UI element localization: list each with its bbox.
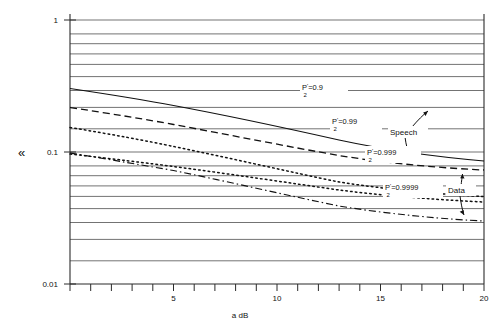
- x-axis-title: a dB: [232, 311, 248, 320]
- figure-container: 1 0.1 0.01 « 5 10 15 20 a dB P'=0.9 2 P'…: [0, 0, 496, 328]
- x-axis-ticks: [70, 284, 484, 291]
- y-tick-label-0-01: 0.01: [42, 280, 58, 289]
- y-tick-label-0-1: 0.1: [47, 148, 59, 157]
- curve-label-p2-0-9: P'=0.9 2: [300, 81, 348, 98]
- label-eq-09999: =0.9999: [391, 183, 418, 192]
- axis-frame: [70, 14, 484, 284]
- gridlines: [70, 20, 484, 261]
- log-linear-chart: 1 0.1 0.01 « 5 10 15 20 a dB P'=0.9 2 P'…: [0, 0, 496, 328]
- speech-arrowhead-upper: [423, 111, 428, 116]
- x-tick-label-5: 5: [171, 294, 176, 303]
- y-axis-chevron-marker: «: [18, 145, 25, 160]
- label-eq-09: =0.9: [308, 83, 323, 92]
- data-curves: [70, 89, 484, 222]
- x-tick-label-15: 15: [376, 294, 385, 303]
- svg-text:P'=0.999: P'=0.999: [367, 148, 396, 157]
- speech-label: Speech: [390, 128, 417, 137]
- svg-text:P'=0.9: P'=0.9: [302, 83, 323, 92]
- x-tick-label-10: 10: [273, 294, 282, 303]
- svg-text:P'=0.99: P'=0.99: [332, 117, 357, 126]
- data-arrowhead-upper: [460, 174, 464, 178]
- data-label: Data: [448, 186, 465, 195]
- label-eq-099: =0.99: [338, 117, 357, 126]
- curve-label-p2-0-9999: P'=0.9999 2: [383, 181, 443, 198]
- annotation-speech: Speech: [388, 126, 428, 138]
- label-eq-0999: =0.999: [373, 148, 396, 157]
- annotation-data: Data: [446, 184, 476, 196]
- x-tick-label-20: 20: [480, 294, 489, 303]
- curve-label-p2-0-999: P'=0.999 2: [365, 146, 421, 163]
- curve-p2-0-9: [70, 89, 484, 162]
- y-tick-label-1: 1: [54, 16, 59, 25]
- curve-label-p2-0-99: P'=0.99 2: [330, 115, 382, 132]
- data-arrowhead-lower: [460, 210, 464, 215]
